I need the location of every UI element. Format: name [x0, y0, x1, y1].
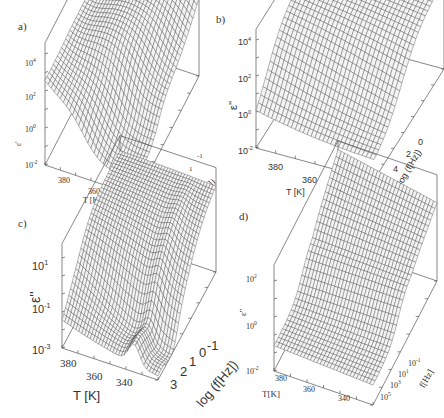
x-tick-b-380: 380: [268, 163, 283, 172]
x-tick-d-380: 380: [275, 375, 287, 383]
y-tick-c-m1: -1: [207, 339, 219, 352]
y-tick-d-5: 105: [380, 392, 391, 402]
x-axis-label-c: T [K]: [73, 389, 100, 402]
z-tick-b-0: 100: [238, 110, 251, 120]
panel-d: d) 102 100 10-2 ε'' 380 360 340 T[K] 105…: [222, 205, 444, 418]
z-tick-c-m1: 10-1: [32, 302, 50, 315]
z-axis-label-a: ε': [15, 141, 23, 146]
x-axis-label-d: T[K]: [262, 390, 280, 399]
y-tick-d-m1: 10-1: [408, 358, 421, 368]
x-axis-label-b: T [K]: [286, 188, 305, 197]
z-tick-a-2: 102: [25, 92, 36, 102]
z-tick-b-m2: 10-2: [238, 146, 253, 156]
z-axis-label-d: ε'': [239, 309, 248, 316]
y-tick-a-1: 1: [189, 166, 193, 173]
surface-plot-d: [222, 205, 444, 418]
z-tick-c-1: 101: [32, 259, 48, 272]
z-tick-a-0: 100: [25, 124, 36, 134]
panel-c: c) 101 10-1 10-3 ε'' 380 360 340 T [K] 3…: [0, 205, 222, 418]
y-tick-c-3: 3: [170, 378, 177, 391]
x-tick-c-380: 380: [60, 358, 77, 369]
z-tick-a-4: 104: [25, 58, 36, 68]
z-tick-c-m3: 10-3: [32, 343, 50, 356]
x-tick-d-360: 360: [303, 386, 315, 394]
x-tick-c-340: 340: [116, 377, 133, 388]
z-axis-label-c: ε'': [28, 291, 42, 303]
y-tick-c-2: 2: [180, 365, 187, 378]
z-tick-a-m2: 10-2: [25, 160, 38, 170]
x-tick-d-340: 340: [338, 395, 350, 403]
y-tick-c-0: 0: [199, 346, 206, 359]
z-tick-b-4: 104: [238, 37, 251, 47]
surface-mesh: [256, 0, 444, 160]
z-axis-label-b: ε'': [228, 101, 239, 110]
z-tick-d-m2: 10-2: [246, 366, 259, 376]
y-tick-d-1: 101: [398, 369, 409, 379]
z-tick-b-2: 102: [238, 74, 251, 84]
x-tick-c-360: 360: [86, 371, 103, 382]
y-tick-b-0: 0: [418, 138, 423, 147]
y-tick-c-1: 1: [189, 355, 196, 368]
z-tick-d-0: 100: [246, 321, 257, 331]
y-tick-a-m1: -1: [197, 153, 203, 160]
x-tick-a-380: 380: [58, 177, 70, 185]
z-tick-d-2: 102: [246, 274, 257, 284]
y-tick-b-4: 4: [393, 165, 398, 174]
y-tick-d-3: 103: [390, 380, 401, 390]
x-tick-b-360: 360: [302, 176, 317, 185]
